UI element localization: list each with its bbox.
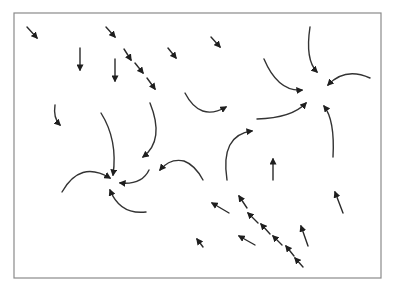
straight-arrow-icon xyxy=(211,37,220,47)
curved-arrow-left-sink-from-right-icon xyxy=(120,170,149,183)
straight-arrow-icon xyxy=(301,226,308,246)
straight-arrow-icon xyxy=(135,63,143,73)
curved-arrow-right-sink-from-right-icon xyxy=(328,74,370,85)
straight-arrow-icon xyxy=(168,48,176,58)
straight-arrow-icon xyxy=(248,213,258,223)
straight-arrow-icon xyxy=(27,27,37,38)
straight-arrow-icon xyxy=(295,258,303,267)
diagram-frame xyxy=(14,13,381,278)
curved-arrow-right-sink-from-bottom-icon xyxy=(324,106,333,157)
straight-arrow-icon xyxy=(212,203,229,213)
straight-arrow-icon xyxy=(335,192,343,213)
curved-arrow-right-sink-from-left-bottom-icon xyxy=(257,103,306,119)
straight-arrow-icon xyxy=(261,224,270,234)
straight-arrow-icon xyxy=(197,239,203,247)
straight-arrow-icon xyxy=(106,27,115,37)
straight-arrow-icon xyxy=(286,246,294,256)
straight-arrow-icon xyxy=(273,236,282,245)
straight-arrows-group xyxy=(27,27,343,267)
straight-arrow-icon xyxy=(124,49,131,60)
curved-arrow-left-sink-from-bottom-icon xyxy=(110,190,146,212)
vector-field-diagram xyxy=(0,0,394,290)
curved-arrow-left-center-curve-icon xyxy=(143,103,156,157)
curved-arrow-left-sink-from-left-icon xyxy=(62,172,110,192)
curved-arrow-center-top-curve-icon xyxy=(185,93,226,112)
straight-arrow-icon xyxy=(239,196,247,208)
curved-arrow-mid-curve-icon xyxy=(160,160,203,180)
curved-arrow-right-sink-from-top-icon xyxy=(309,27,317,72)
straight-arrow-icon xyxy=(239,236,255,245)
curved-arrows-group xyxy=(55,27,370,212)
curved-arrow-center-up-curve-icon xyxy=(226,131,252,180)
curved-arrow-left-sink-from-top-icon xyxy=(101,113,114,175)
curved-arrow-left-upper-hook-icon xyxy=(55,105,60,125)
straight-arrow-icon xyxy=(147,78,155,89)
curved-arrow-right-sink-from-left-top-icon xyxy=(264,59,302,90)
